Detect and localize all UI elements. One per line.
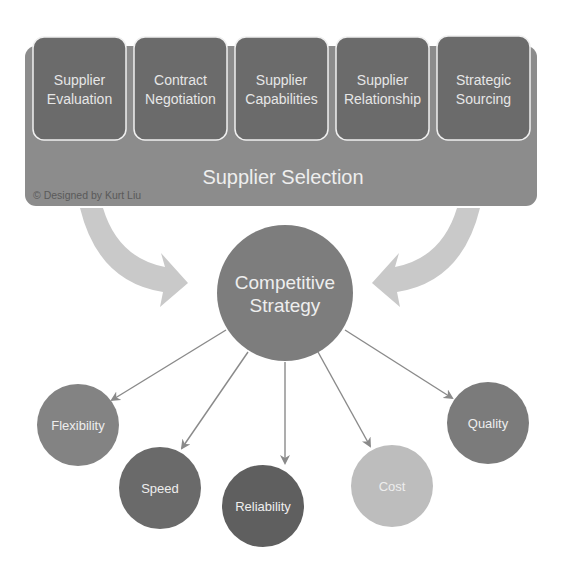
band-title: Supplier Selection [202, 166, 363, 188]
designer-credit: © Designed by Kurt Liu [33, 189, 141, 201]
tile-supplier-evaluation: Supplier Evaluation [33, 37, 126, 140]
outcome-label: Flexibility [51, 418, 105, 433]
outcome-label: Cost [379, 479, 406, 494]
tile-line2: Capabilities [245, 91, 317, 107]
center-line2: Strategy [250, 295, 321, 316]
tile-line2: Relationship [344, 91, 421, 107]
connector-speed [182, 352, 248, 448]
tile-contract-negotiation: Contract Negotiation [134, 37, 227, 140]
tile-strategic-sourcing: Strategic Sourcing [437, 36, 530, 140]
outcome-label: Quality [468, 416, 509, 431]
tile-supplier-capabilities: Supplier Capabilities [235, 37, 328, 140]
outcome-cost: Cost [351, 445, 433, 527]
outcome-label: Reliability [235, 499, 291, 514]
outcome-label: Speed [141, 481, 179, 496]
outcome-speed: Speed [119, 447, 201, 529]
connector-flexibility [112, 330, 226, 400]
curved-arrow-left-icon [80, 208, 188, 307]
tile-line1: Supplier [54, 72, 106, 88]
competitive-strategy-node: Competitive Strategy [217, 225, 353, 361]
tile-line2: Evaluation [47, 91, 112, 107]
tile-supplier-relationship: Supplier Relationship [336, 37, 429, 140]
center-line1: Competitive [235, 272, 335, 293]
tile-line1: Supplier [357, 72, 409, 88]
tile-line1: Strategic [456, 72, 511, 88]
curved-arrow-right-icon [372, 208, 480, 307]
tile-line1: Supplier [256, 72, 308, 88]
outcome-quality: Quality [447, 382, 529, 464]
outcome-reliability: Reliability [222, 465, 304, 547]
connector-quality [345, 330, 452, 398]
supplier-selection-diagram: Supplier Selection © Designed by Kurt Li… [0, 0, 562, 575]
tile-line2: Negotiation [145, 91, 216, 107]
tile-line2: Sourcing [456, 91, 511, 107]
connector-cost [318, 352, 370, 446]
tile-line1: Contract [154, 72, 207, 88]
outcome-flexibility: Flexibility [37, 384, 119, 466]
